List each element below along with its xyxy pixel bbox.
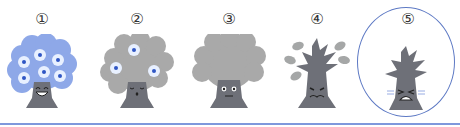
dead-tree-icon <box>361 34 451 114</box>
leafless-tree-icon <box>272 34 362 114</box>
stage-number: ② <box>92 10 182 28</box>
stage-3-panel: ③ <box>184 0 274 120</box>
blossoming-tree-icon <box>0 34 90 114</box>
stage-number: ① <box>0 10 87 28</box>
fading-tree-icon <box>92 34 182 114</box>
stage-number: ④ <box>272 10 362 28</box>
stage-number: ③ <box>184 10 274 28</box>
stage-1-panel: ① <box>0 0 90 120</box>
stage-2-panel: ② <box>92 0 182 120</box>
stage-4-panel: ④ <box>272 0 362 120</box>
bottom-divider <box>0 123 460 125</box>
stage-number: ⑤ <box>363 10 453 28</box>
bare-canopy-tree-icon <box>184 34 274 114</box>
stage-5-panel: ⑤ <box>361 0 451 120</box>
